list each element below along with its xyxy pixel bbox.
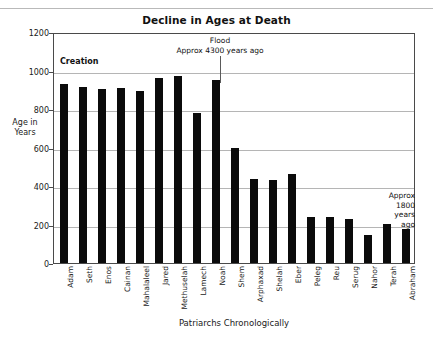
y-tick-mark — [49, 264, 53, 265]
x-tick-label: Peleg — [313, 266, 322, 286]
bar — [250, 179, 258, 263]
x-tick-label: Shem — [237, 266, 246, 287]
bar — [326, 217, 334, 263]
bar — [269, 180, 277, 263]
x-tick-label: Terah — [389, 266, 398, 286]
y-tick-label: 600 — [9, 144, 49, 153]
x-tick-label: Seth — [85, 266, 94, 283]
x-tick-label: Eber — [294, 266, 303, 283]
plot-area — [53, 33, 415, 264]
annotation-flood: Flood Approx 4300 years ago — [150, 36, 290, 55]
x-axis-title: Patriarchs Chronologically — [53, 318, 415, 328]
x-tick-label: Serug — [351, 266, 360, 288]
x-tick-label: Methuselah — [180, 266, 189, 310]
y-tick-label: 1000 — [9, 67, 49, 76]
x-tick-label: Cainan — [123, 266, 132, 292]
y-tick-label: 400 — [9, 183, 49, 192]
bar — [212, 80, 220, 263]
y-tick-label: 800 — [9, 106, 49, 115]
bar — [193, 113, 201, 263]
chart-title: Decline in Ages at Death — [0, 14, 433, 26]
bar — [174, 76, 182, 263]
x-tick-label: Abraham — [408, 266, 417, 300]
bar — [383, 224, 391, 263]
bar — [345, 219, 353, 263]
y-axis-title: Age in Years — [2, 118, 48, 138]
x-tick-label: Reu — [332, 266, 341, 280]
bar — [79, 87, 87, 263]
annotation-creation: Creation — [60, 57, 98, 67]
x-axis-category-labels: AdamSethEnosCainanMahalaleelJaredMethuse… — [53, 266, 415, 318]
bar — [402, 229, 410, 263]
y-tick-label: 200 — [9, 221, 49, 230]
y-axis-ticks: 020040060080010001200 — [5, 33, 49, 264]
bar — [60, 84, 68, 263]
bar — [364, 235, 372, 263]
bar — [117, 88, 125, 263]
bar — [307, 217, 315, 263]
gridline — [54, 73, 414, 74]
x-tick-label: Jared — [161, 266, 170, 285]
bar — [155, 78, 163, 263]
annotation-recent-years: Approx 1800 years ago — [363, 191, 415, 229]
bar — [231, 148, 239, 264]
page-top-rule — [0, 8, 433, 9]
x-tick-label: Arphaxad — [256, 266, 265, 302]
x-tick-label: Mahalaleel — [142, 266, 151, 307]
x-tick-label: Adam — [66, 266, 75, 288]
x-tick-label: Lamech — [199, 266, 208, 296]
x-tick-label: Noah — [218, 266, 227, 286]
bar — [288, 174, 296, 263]
y-tick-label: 0 — [9, 260, 49, 269]
x-tick-label: Shelah — [275, 266, 284, 292]
gridline — [54, 111, 414, 112]
bar — [98, 89, 106, 263]
x-tick-label: Nahor — [370, 266, 379, 289]
x-tick-label: Enos — [104, 266, 113, 284]
y-tick-label: 1200 — [9, 29, 49, 38]
annotation-flood-leader-line — [220, 56, 221, 83]
bar — [136, 91, 144, 263]
